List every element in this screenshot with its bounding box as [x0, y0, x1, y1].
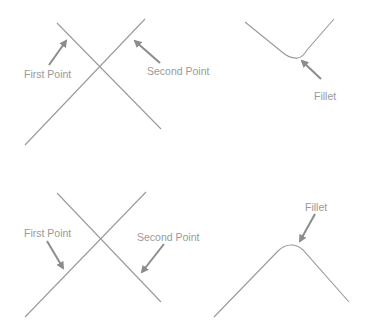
first-point-label: First Point	[24, 68, 71, 80]
first-line	[57, 193, 161, 302]
fillet-arrow-icon	[302, 61, 321, 79]
fillet-label: Fillet	[314, 90, 336, 102]
panel-bottom-right: Fillet	[214, 201, 349, 317]
second-point-arrow-icon	[135, 41, 160, 63]
second-point-arrow-icon	[142, 244, 164, 272]
second-line	[25, 19, 145, 145]
panel-top-right: Fillet	[245, 19, 336, 102]
second-line	[25, 192, 146, 317]
first-point-label: First Point	[24, 227, 71, 239]
fillet-curve	[245, 19, 334, 58]
first-line	[57, 23, 161, 129]
panel-bottom-left: First Point Second Point	[24, 192, 200, 317]
fillet-curve	[214, 245, 349, 317]
first-point-arrow-icon	[47, 241, 63, 268]
fillet-arrow-icon	[300, 214, 315, 241]
panel-top-left: First Point Second Point	[24, 19, 210, 145]
first-point-arrow-icon	[49, 41, 66, 65]
fillet-diagram: First Point Second Point Fillet First Po…	[0, 0, 368, 336]
second-point-label: Second Point	[147, 65, 210, 77]
fillet-label: Fillet	[305, 201, 327, 213]
second-point-label: Second Point	[137, 231, 200, 243]
